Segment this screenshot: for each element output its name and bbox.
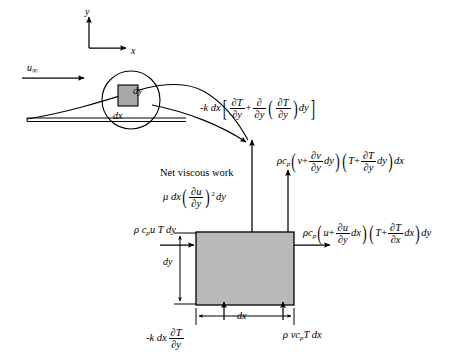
conv-bottom-lead: ρ vc: [283, 329, 300, 340]
viscous-work-title: Net viscous work: [160, 168, 234, 179]
convection-left-term: ρ cpu T dy: [134, 225, 176, 237]
control-volume-box: [196, 232, 294, 305]
frac-dT-dy-inner: ∂T∂y: [276, 97, 291, 120]
paren-close: ): [293, 98, 297, 120]
conduction-top-lead: -k dx: [200, 102, 221, 113]
conv-right-g2-trail: dx: [404, 227, 414, 238]
axis-y-label: y: [85, 7, 89, 17]
paren-open: (: [182, 187, 186, 209]
conv-left-trail: u T dy: [150, 224, 176, 235]
frac-d-dy: ∂∂y: [253, 97, 267, 120]
paren2-open: (: [342, 151, 346, 173]
frac-dT-dx: ∂T∂x: [388, 222, 403, 245]
inset-dy-label: dy: [133, 86, 142, 96]
conduction-top-trail: dy: [299, 102, 309, 113]
conv-right-trail: dy: [421, 227, 431, 238]
frac-du-dy: ∂u∂y: [189, 186, 203, 209]
conv-top-lead: ρc: [277, 155, 287, 166]
bracket-close: ]: [310, 97, 314, 121]
conv-left-lead: ρ c: [134, 224, 146, 235]
conduction-bottom-term: -k dx ∂T∂y: [146, 327, 185, 350]
conv-top-g1-op: +: [302, 155, 308, 166]
axis-x-label: x: [131, 46, 135, 56]
control-volume-dy-label: dy: [163, 257, 172, 267]
freestream-velocity-label: u∞: [27, 63, 38, 75]
conv-bottom-trail: T dx: [304, 329, 322, 340]
viscous-exponent: 2: [212, 190, 215, 197]
paren1-open: (: [292, 151, 296, 173]
conduction-top-term: -k dx[∂T∂y+∂∂y(∂T∂y)dy]: [200, 97, 317, 121]
conv-right-g1-op: +: [329, 227, 335, 238]
convection-top-term: ρcp(v+∂v∂ydy)(T+∂T∂ydy)dx: [277, 150, 404, 173]
paren1-close: ): [362, 223, 366, 245]
paren-close: ): [206, 187, 210, 209]
conv-right-g2-op: +: [381, 227, 387, 238]
energy-balance-diagram: y x u∞ dy dx -k dx[∂T∂y+∂∂y(∂T∂y)dy] Net…: [0, 0, 456, 355]
conv-top-trail: dx: [394, 155, 404, 166]
conv-right-lead: ρc: [303, 227, 313, 238]
conv-top-lead-sub: p: [287, 160, 291, 168]
paren2-close: ): [415, 223, 419, 245]
frac-dv-dy: ∂v∂y: [309, 150, 323, 173]
paren2-open: (: [370, 223, 374, 245]
freestream-subscript: ∞: [32, 66, 38, 75]
bracket-open: [: [222, 97, 226, 121]
conv-top-g2-trail: dy: [377, 155, 387, 166]
paren2-close: ): [388, 151, 392, 173]
paren-open: (: [269, 98, 273, 120]
coordinate-axes: [89, 17, 126, 48]
cond-bottom-lead: -k dx: [146, 332, 167, 343]
conv-right-lead-sub: p: [313, 232, 317, 240]
control-volume-dx-label: dx: [237, 311, 246, 321]
viscous-work-term: μ dx(∂u∂y)2 dy: [163, 186, 226, 209]
dimension-dy: [174, 233, 196, 304]
convection-bottom-term: ρ vcpT dx: [283, 330, 322, 342]
inset-dx-label: dx: [113, 111, 122, 121]
flat-plate: [27, 118, 186, 122]
convection-right-term: ρcp(u+∂u∂ydx)(T+∂T∂xdx)dy: [303, 222, 431, 245]
plus-operator: +: [246, 102, 252, 113]
viscous-trail: dy: [216, 191, 226, 202]
paren1-close: ): [335, 151, 339, 173]
conv-right-g1-trail: dx: [351, 227, 361, 238]
viscous-lead: μ dx: [163, 191, 181, 202]
conv-top-g2-op: +: [354, 155, 360, 166]
frac-dT-dy: ∂T∂y: [230, 97, 245, 120]
frac-dT-dy: ∂T∂y: [169, 327, 184, 350]
conv-top-g1-trail: dy: [324, 155, 334, 166]
paren1-open: (: [318, 223, 322, 245]
frac-dT-dy: ∂T∂y: [361, 150, 376, 173]
frac-du-dy: ∂u∂y: [336, 222, 350, 245]
